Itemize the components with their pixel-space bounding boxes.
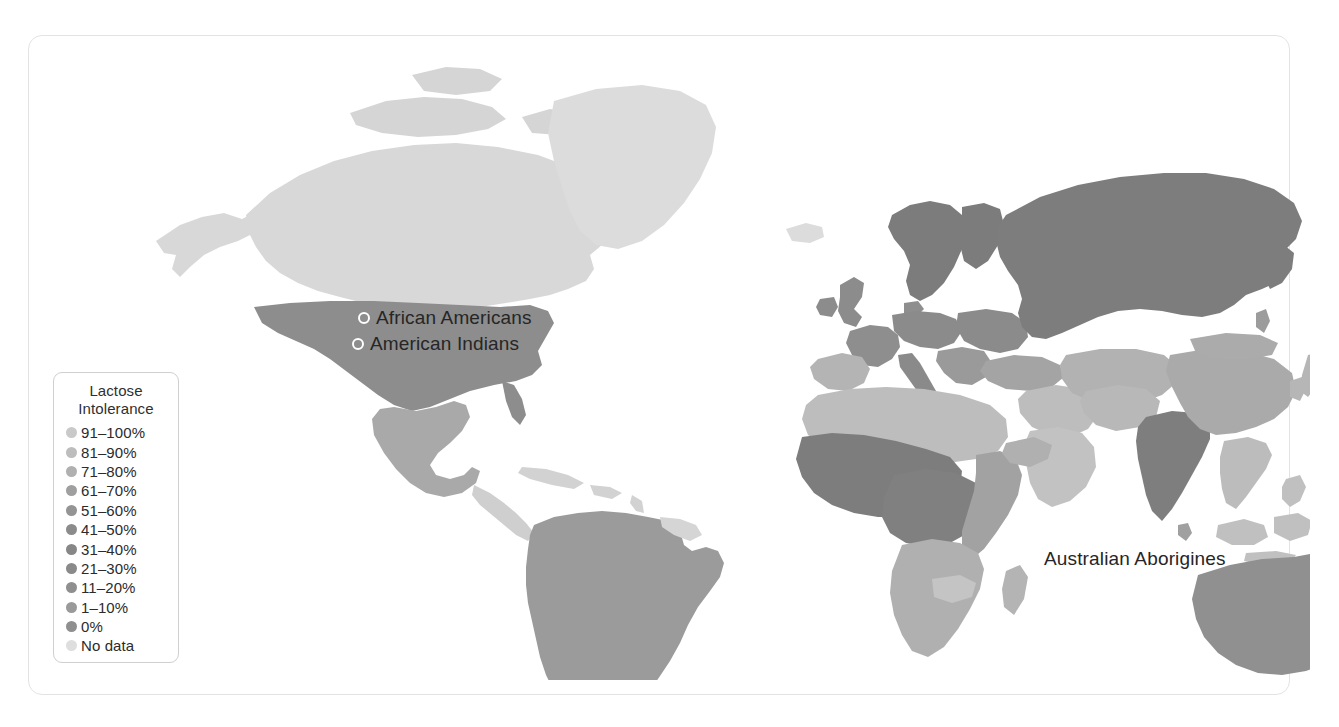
legend-swatch-icon [66, 505, 77, 516]
region-central-america [472, 485, 534, 541]
region-indonesia-sumatra [1216, 519, 1268, 545]
region-turkey-caucasus [980, 355, 1064, 391]
region-south-america [526, 511, 724, 680]
map-label-text: African Americans [376, 308, 532, 328]
region-british-isles [838, 277, 864, 327]
legend-item: 41–50% [66, 520, 178, 539]
legend-item-label: 1–10% [81, 600, 128, 615]
map-label-text: Australian Aborigines [1044, 549, 1226, 569]
region-germany-poland [892, 311, 962, 349]
map-label-text: American Indians [370, 334, 519, 354]
region-sakhalin [1256, 309, 1270, 333]
legend-swatch-icon [66, 447, 77, 458]
region-indonesia-borneo [1274, 513, 1310, 541]
legend-swatch-icon [66, 582, 77, 593]
legend-item: 81–90% [66, 442, 178, 461]
region-philippines [1282, 475, 1306, 507]
region-iberia [810, 353, 870, 391]
legend-item: 21–30% [66, 559, 178, 578]
region-eastern-europe [956, 309, 1028, 353]
map-marker-icon [352, 338, 364, 350]
legend-swatch-icon [66, 602, 77, 613]
legend-item-label: 81–90% [81, 445, 137, 460]
legend-item-label: 11–20% [81, 580, 136, 595]
map-label-american-indians: American Indians [352, 334, 519, 354]
legend-swatch-icon [66, 466, 77, 477]
map-marker-icon [358, 312, 370, 324]
region-sri-lanka [1178, 523, 1192, 541]
region-north-asia [996, 173, 1302, 339]
region-africa [796, 387, 1052, 657]
legend-item: No data [66, 636, 178, 655]
region-north-america [156, 67, 716, 541]
region-scandinavia [888, 201, 966, 301]
region-arctic-islands-2 [412, 67, 502, 95]
legend-title-line-2: Intolerance [58, 400, 174, 418]
region-iceland [786, 223, 824, 243]
legend-swatch-icon [66, 544, 77, 555]
legend-item-label: 71–80% [81, 464, 137, 479]
region-japan [1300, 351, 1310, 397]
legend-swatch-icon [66, 563, 77, 574]
legend-item-label: 51–60% [81, 503, 137, 518]
legend-item: 91–100% [66, 423, 178, 442]
region-arctic-islands [350, 97, 506, 137]
legend-rows: 91–100%81–90%71–80%61–70%51–60%41–50%31–… [54, 423, 178, 656]
legend-title-line-1: Lactose [58, 382, 174, 400]
region-far-east [1264, 245, 1294, 289]
region-cuba [518, 467, 584, 489]
region-east-africa [962, 451, 1022, 559]
legend-item: 31–40% [66, 539, 178, 558]
legend-item-label: 61–70% [81, 483, 137, 498]
legend-item-label: 91–100% [81, 425, 145, 440]
legend-item: 11–20% [66, 578, 178, 597]
legend-item-label: 0% [81, 619, 103, 634]
map-label-african-americans: African Americans [358, 308, 532, 328]
legend-swatch-icon [66, 485, 77, 496]
legend-item: 51–60% [66, 501, 178, 520]
region-mexico [372, 401, 480, 497]
map-marker-icon [1026, 553, 1038, 565]
legend-swatch-icon [66, 640, 77, 651]
region-southeast-asia [1220, 437, 1272, 509]
legend-item: 0% [66, 617, 178, 636]
region-hispaniola [590, 485, 622, 499]
region-alaska [156, 213, 262, 277]
legend-item-label: 31–40% [81, 542, 137, 557]
world-map-svg [150, 55, 1310, 680]
region-florida [502, 381, 526, 425]
legend-title: Lactose Intolerance [54, 382, 178, 423]
legend-swatch-icon [66, 621, 77, 632]
map-legend: Lactose Intolerance 91–100%81–90%71–80%6… [53, 372, 179, 663]
legend-swatch-icon [66, 524, 77, 535]
region-madagascar [1002, 565, 1028, 615]
legend-item-label: No data [81, 638, 134, 653]
legend-item: 61–70% [66, 481, 178, 500]
world-map: African Americans American Indians Austr… [0, 0, 1339, 727]
region-ireland [816, 297, 838, 317]
legend-item-label: 21–30% [81, 561, 137, 576]
region-lesser-antilles [630, 495, 644, 513]
map-label-australian-aborigines: Australian Aborigines [1026, 549, 1226, 569]
legend-item: 71–80% [66, 462, 178, 481]
legend-item: 1–10% [66, 598, 178, 617]
legend-swatch-icon [66, 427, 77, 438]
legend-item-label: 41–50% [81, 522, 137, 537]
